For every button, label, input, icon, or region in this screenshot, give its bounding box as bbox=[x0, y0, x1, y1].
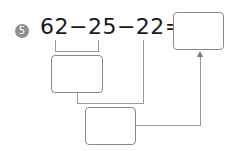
term3-connector-line bbox=[143, 40, 144, 104]
bracket-right-line bbox=[98, 40, 99, 51]
math-expression: 62−25−22= bbox=[40, 14, 184, 40]
answer-box[interactable] bbox=[173, 12, 224, 50]
arrow-vertical-line bbox=[200, 56, 201, 126]
step1-box[interactable] bbox=[51, 55, 103, 93]
problem-number-badge: 5 bbox=[15, 24, 29, 38]
bracket-left-line bbox=[55, 40, 56, 51]
arrow-up-icon bbox=[197, 51, 203, 57]
step2-box[interactable] bbox=[85, 107, 136, 145]
arrow-horizontal-line bbox=[136, 125, 201, 126]
bracket-bottom-line bbox=[55, 51, 99, 52]
merge-connector-line bbox=[77, 103, 144, 104]
